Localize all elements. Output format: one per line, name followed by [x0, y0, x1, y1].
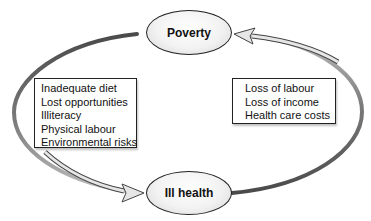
arrowhead-icon [122, 184, 144, 202]
list-item: Inadequate diet [41, 82, 130, 96]
list-item: Physical labour [41, 123, 130, 137]
poverty-causes-box: Inadequate diet Lost opportunities Illit… [34, 78, 137, 148]
list-item: Environmental risks [41, 136, 130, 150]
list-item: Loss of labour [245, 82, 329, 96]
list-item: Illiteracy [41, 109, 130, 123]
poverty-node: Poverty [146, 10, 232, 55]
ill-health-node: Ill health [146, 171, 232, 215]
list-item: Lost opportunities [41, 96, 130, 110]
ill-health-label: Ill health [165, 186, 214, 200]
ill-health-effects-box: Loss of labour Loss of income Health car… [232, 78, 336, 124]
list-item: Loss of income [245, 96, 329, 110]
poverty-label: Poverty [167, 26, 211, 40]
list-item: Health care costs [245, 109, 329, 123]
